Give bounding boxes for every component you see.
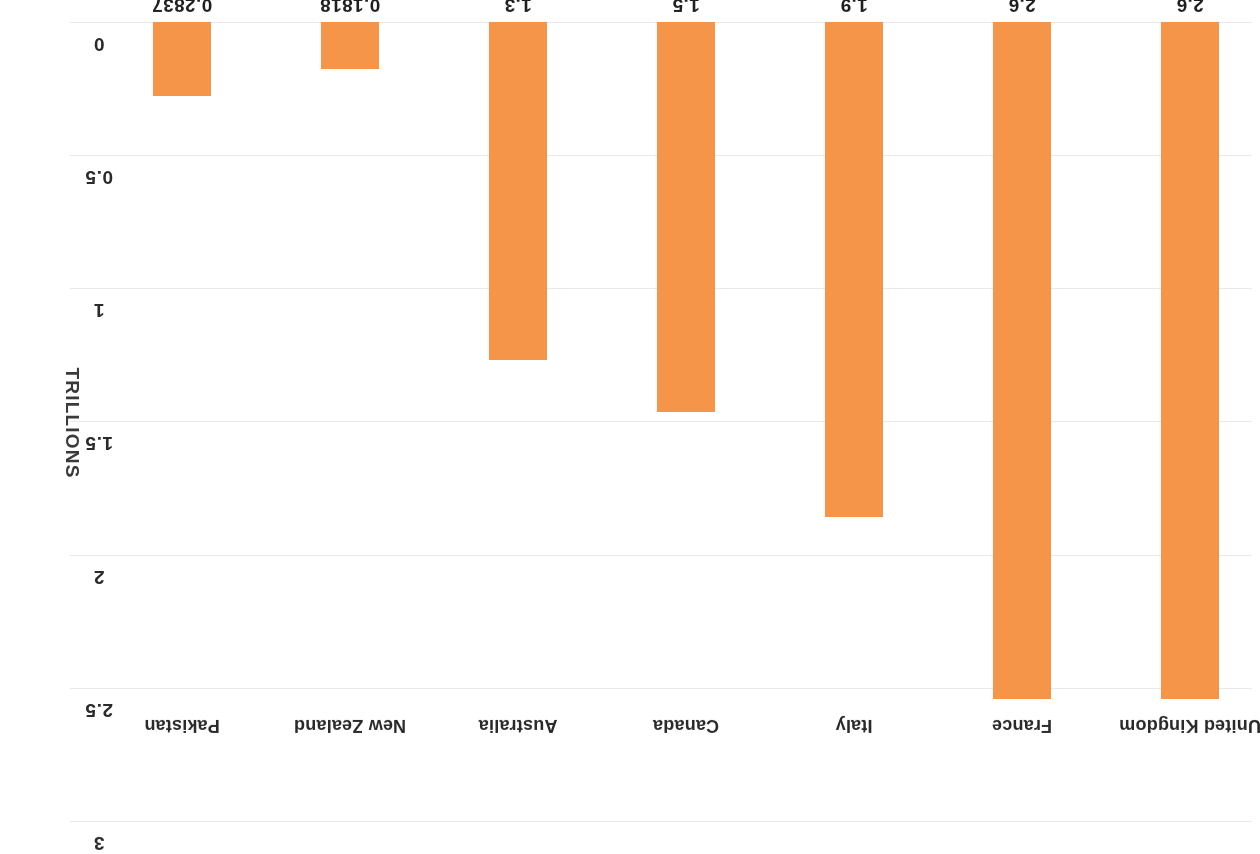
y-axis-title: TRILLIONS [61,368,83,479]
category-label-pakistan: Pakistan [92,715,272,736]
plot-area: 0 0.5 1 1.5 2 2.5 3 TRILLIONS 2.6 United… [70,0,1260,847]
bar-value-united-kingdom: 2.6 [1130,0,1250,16]
bar-value-australia: 1.3 [458,0,578,16]
y-axis-tick-0-5: 0.5 [70,166,128,188]
bar-australia[interactable] [489,22,547,360]
bar-new-zealand[interactable] [321,22,379,69]
gridline-3 [70,821,1252,822]
gridline-2 [70,555,1252,556]
gridline-2-5 [70,688,1252,689]
bar-value-canada: 1.5 [626,0,746,16]
bar-value-italy: 1.9 [794,0,914,16]
bar-italy[interactable] [825,22,883,517]
y-axis-tick-1: 1 [70,299,128,321]
category-label-canada: Canada [596,715,776,736]
y-axis-tick-3: 3 [70,832,128,854]
bar-united-kingdom[interactable] [1161,22,1219,699]
y-axis-tick-2: 2 [70,566,128,588]
bar-canada[interactable] [657,22,715,413]
category-label-australia: Australia [428,715,608,736]
gridline-1-5 [70,422,1252,423]
bar-value-new-zealand: 0.1818 [290,0,410,16]
y-axis-tick-0: 0 [70,33,128,55]
bar-france[interactable] [993,22,1051,699]
bar-pakistan[interactable] [153,22,211,96]
bar-value-france: 2.6 [962,0,1082,16]
category-label-united-kingdom: United Kingdom [1100,715,1260,736]
bar-value-pakistan: 0.2837 [122,0,242,16]
category-label-new-zealand: New Zealand [260,715,440,736]
category-label-italy: Italy [764,715,944,736]
category-label-france: France [932,715,1112,736]
